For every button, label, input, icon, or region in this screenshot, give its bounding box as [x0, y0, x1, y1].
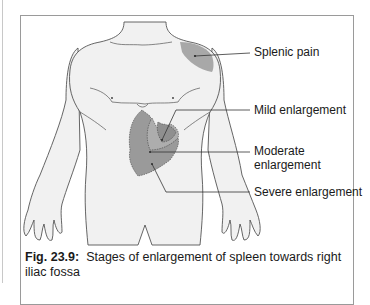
right-nipple	[172, 97, 174, 99]
left-nipple	[111, 97, 113, 99]
caption-number: Fig. 23.9:	[25, 250, 79, 264]
label-splenic-pain: Splenic pain	[254, 46, 319, 59]
label-mild-enlargement: Mild enlargement	[254, 104, 346, 117]
figure-caption: Fig. 23.9: Stages of enlargement of sple…	[25, 250, 355, 280]
label-moderate-enlargement-line1: Moderate	[254, 145, 305, 158]
label-severe-enlargement: Severe enlargement	[254, 186, 362, 199]
label-moderate-enlargement-line2: enlargement	[254, 159, 321, 172]
